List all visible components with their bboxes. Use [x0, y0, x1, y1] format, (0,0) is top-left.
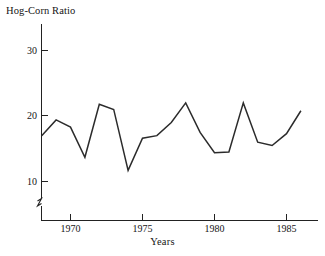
- plot-area: 30 20 10 1970 1975 1980 1985: [0, 0, 325, 256]
- data-line-hog-corn-ratio: [42, 103, 301, 170]
- y-tick-labels: 30 20 10: [27, 45, 37, 187]
- x-tick-labels: 1970 1975 1980 1985: [61, 223, 297, 234]
- x-tick-label-1985: 1985: [277, 223, 297, 234]
- y-tick-label-10: 10: [27, 176, 37, 187]
- chart-figure: Hog-Corn Ratio 30 20 10: [0, 0, 325, 256]
- y-axis-break-icon: [38, 199, 42, 207]
- x-tick-label-1975: 1975: [133, 223, 153, 234]
- y-tick-marks: [42, 51, 49, 182]
- y-tick-label-20: 20: [27, 110, 37, 121]
- x-tick-label-1980: 1980: [205, 223, 225, 234]
- y-tick-label-30: 30: [27, 45, 37, 56]
- x-tick-marks: [71, 214, 287, 221]
- x-tick-label-1970: 1970: [61, 223, 81, 234]
- x-axis-title: Years: [0, 236, 325, 247]
